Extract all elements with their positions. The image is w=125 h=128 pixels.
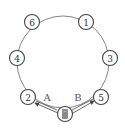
node-4: 4 [10, 51, 25, 66]
start-block-icon [63, 110, 68, 119]
node-2-label: 2 [25, 93, 31, 103]
node-5-label: 5 [98, 93, 104, 103]
node-6-label: 6 [29, 18, 35, 28]
edge-a-label: A [42, 92, 51, 103]
node-1-label: 1 [83, 18, 89, 28]
node-2: 2 [21, 90, 36, 105]
node-5: 5 [94, 90, 109, 105]
circular-diagram: 6 1 4 3 2 5 A B [0, 0, 125, 128]
node-start [58, 107, 73, 122]
edge-b-label: B [74, 92, 81, 103]
node-3-label: 3 [107, 54, 113, 64]
node-6: 6 [25, 15, 40, 30]
node-4-label: 4 [14, 54, 20, 64]
node-3: 3 [103, 51, 118, 66]
node-1: 1 [79, 15, 94, 30]
